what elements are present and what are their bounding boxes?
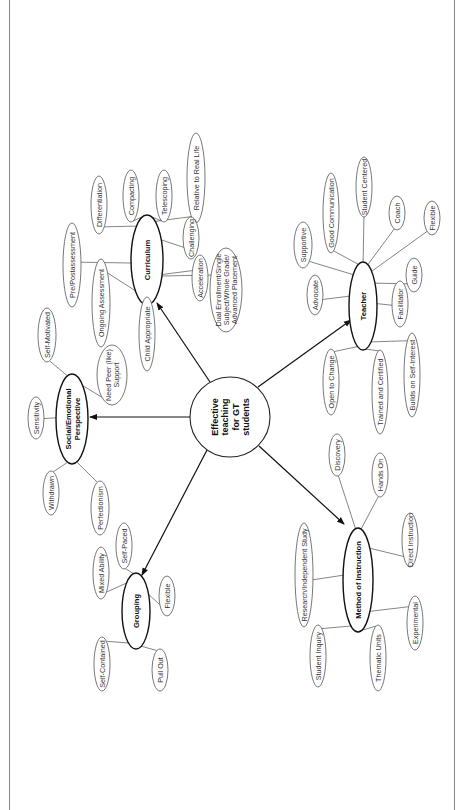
leaf-node-flexible: Flexible	[424, 201, 440, 235]
leaf-label: Self-Paced	[120, 528, 129, 563]
connector-grouping-pull-out	[141, 646, 157, 650]
connector-social-self-motivated	[50, 361, 68, 376]
leaf-label: Self-Contained	[98, 640, 107, 688]
hub-node-method: Method of Instruction	[343, 528, 373, 632]
leaf-label-line: Pre/Postassessment	[68, 232, 77, 298]
leaf-label-line: Self-Contained	[98, 640, 107, 688]
leaf-node-self-paced: Self-Paced	[116, 523, 132, 569]
leaf-label: Experimental	[411, 602, 420, 644]
connector-social-perfectionism	[77, 462, 97, 482]
connector-method-experimental	[370, 607, 409, 612]
leaf-node-student-centered: Student Centered	[356, 157, 372, 217]
leaf-label: Pre/Postassessment	[68, 232, 77, 298]
leaf-label-line: Ongoing Assessment	[97, 269, 106, 337]
hub-node-teacher: Teacher	[349, 262, 377, 350]
arrow-to-grouping	[142, 450, 207, 575]
leaf-label-line: Perfectionism	[96, 486, 105, 530]
leaf-label: Flexible	[163, 584, 172, 609]
leaf-label: Supportive	[299, 228, 308, 262]
leaf-label: Facilitator	[396, 288, 405, 320]
leaf-label-line: Facilitator	[396, 288, 405, 320]
leaf-label: Compacting	[127, 177, 136, 215]
leaf-node-self-motivated: Self-Motivated	[38, 308, 56, 362]
leaf-node-perfectionism: Perfectionism	[91, 481, 109, 535]
hub-label-curriculum: Curriculum	[143, 240, 152, 281]
leaf-node-good-communication: Good Communication	[323, 173, 339, 253]
connector-curriculum-ongoing-assessment	[108, 273, 136, 291]
leaf-node-ongoing-assessment: Ongoing Assessment	[92, 259, 110, 347]
center-label-line: teaching	[220, 398, 230, 435]
leaf-label-line: Pull Out	[156, 657, 165, 683]
leaf-label-line: Mixed Ability	[97, 553, 106, 593]
leaf-node-coach: Coach	[389, 196, 405, 230]
connector-teacher-open-to-change	[334, 347, 357, 352]
center-label-line: students	[241, 398, 251, 436]
connector-social-withdrawn	[53, 462, 67, 472]
leaf-label-line: Student Centered	[360, 159, 369, 215]
leaf-label: Challenging	[187, 219, 196, 257]
leaf-label: Trained and Certified	[376, 359, 385, 426]
leaf-label: Coach	[393, 203, 402, 224]
leaf-label-line: Support	[112, 362, 121, 387]
leaf-label-line: Guide	[410, 265, 419, 284]
leaf-label-line: Differentiation	[95, 183, 104, 227]
connector-teacher-builds-on-self-interest	[371, 341, 407, 342]
center-node: Effectiveteachingfor GTstudents	[190, 377, 270, 457]
connector-teacher-facilitator	[377, 304, 392, 306]
leaf-node-hands-on: Hands On	[372, 453, 388, 497]
leaf-label-line: Direct Instruction	[406, 513, 415, 567]
leaf-node-pull-out: Pull Out	[152, 649, 168, 691]
hub-label-social-line: Perspective	[73, 398, 82, 441]
leaf-label-line: Student Inquiry	[314, 631, 323, 680]
hub-node-social: Social/EmotionalPerspective	[56, 374, 88, 464]
leaf-label-line: Sensitivity	[32, 401, 41, 434]
leaf-label: Thematic Units	[374, 634, 383, 682]
leaf-node-discovery: Discovery	[329, 434, 345, 476]
leaf-label-line: Discovery	[333, 439, 342, 471]
leaf-label: Advocate	[311, 280, 320, 310]
leaf-label-line: Acceleration	[196, 258, 205, 298]
leaf-label: Dual Enrollment/SingleSubject/Whole Grad…	[214, 253, 240, 326]
leaf-label-line: Flexible	[163, 584, 172, 609]
leaf-node-pre-postassessment: Pre/Postassessment	[63, 223, 81, 307]
hub-node-curriculum: Curriculum	[131, 215, 163, 305]
leaf-label-line: Thematic Units	[374, 634, 383, 682]
leaf-label: Differentiation	[95, 183, 104, 227]
leaf-node-need-peer-like-support: Need Peer (like)Support	[97, 345, 127, 405]
leaf-label: Acceleration	[196, 258, 205, 298]
leaf-label-line: Compacting	[127, 177, 136, 215]
hub-node-grouping: Grouping	[122, 573, 150, 649]
hub-label-grouping-line: Grouping	[132, 594, 141, 629]
leaf-label: Guide	[410, 265, 419, 284]
leaf-node-advocate: Advocate	[307, 275, 323, 315]
connector-method-student-inquiry	[322, 626, 351, 629]
leaf-label-line: Good Communication	[327, 178, 336, 248]
leaf-label-line: Research/Independent Study	[300, 528, 309, 622]
leaf-label-line: Hands On	[376, 459, 385, 491]
leaf-node-relative-to-real-life: Relative to Real Life	[187, 133, 205, 223]
leaf-label-line: Flexible	[428, 206, 437, 231]
leaf-node-facilitator: Facilitator	[392, 281, 408, 327]
connector-curriculum-challenging	[161, 240, 184, 248]
center-label-line: Effective	[210, 398, 220, 436]
hub-label-teacher: Teacher	[359, 292, 368, 321]
leaf-label-line: Experimental	[411, 602, 420, 644]
connector-teacher-trained-and-certified	[366, 349, 379, 351]
leaf-node-experimental: Experimental	[407, 596, 423, 650]
leaf-label: Telescoping	[160, 177, 169, 215]
connector-teacher-coach	[368, 229, 394, 265]
connector-method-direct-instruction	[370, 548, 404, 556]
leaf-label-line: Advanced Placement	[230, 256, 239, 324]
connector-curriculum-pre-postassessment	[81, 262, 131, 263]
leaf-label: Direct Instruction	[406, 513, 415, 567]
leaf-label-line: Challenging	[187, 219, 196, 257]
leaf-label-line: Self-Paced	[120, 528, 129, 563]
leaf-node-mixed-ability: Mixed Ability	[93, 547, 109, 599]
leaf-label: Relative to Real Life	[192, 146, 201, 210]
connector-grouping-self-paced	[125, 569, 133, 574]
center-label: Effectiveteachingfor GTstudents	[210, 398, 252, 436]
hub-label-curriculum-line: Curriculum	[143, 240, 152, 281]
connector-teacher-advocate	[323, 296, 350, 299]
leaf-node-supportive: Supportive	[294, 222, 312, 268]
leaf-label: Hands On	[376, 459, 385, 491]
